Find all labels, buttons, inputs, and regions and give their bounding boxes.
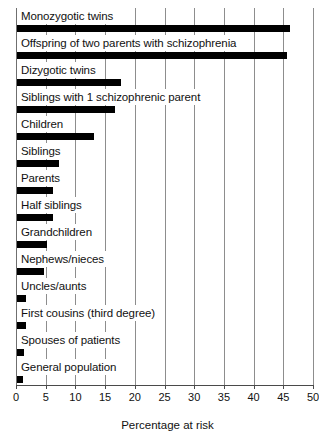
bar xyxy=(17,268,44,275)
bar xyxy=(17,160,59,167)
x-tick-20 xyxy=(135,385,136,389)
x-tick-50 xyxy=(313,385,314,389)
x-tick-label: 50 xyxy=(307,391,319,403)
bar-row: Spouses of patients xyxy=(16,332,313,359)
gridline-50 xyxy=(313,8,314,385)
x-tick-label: 40 xyxy=(247,391,259,403)
bar-label: Siblings with 1 schizophrenic parent xyxy=(17,89,203,105)
bar-label: Children xyxy=(17,116,66,132)
bar-row: First cousins (third degree) xyxy=(16,305,313,332)
x-tick-label: 25 xyxy=(158,391,170,403)
bar xyxy=(17,241,47,248)
bar xyxy=(17,214,53,221)
bar-row: General population xyxy=(16,359,313,386)
bar-label: Dizygotic twins xyxy=(17,62,99,78)
bar xyxy=(17,322,26,329)
x-tick-45 xyxy=(283,385,284,389)
bar-row: Uncles/aunts xyxy=(16,278,313,305)
bar xyxy=(17,376,23,383)
bar xyxy=(17,79,121,86)
bar-label: Siblings xyxy=(17,143,63,159)
bar-label: Nephews/nieces xyxy=(17,251,107,267)
x-axis-title: Percentage at risk xyxy=(0,419,319,431)
bar-row: Half siblings xyxy=(16,197,313,224)
bar-row: Siblings with 1 schizophrenic parent xyxy=(16,89,313,116)
x-tick-label: 0 xyxy=(13,391,19,403)
bar-label: Offspring of two parents with schizophre… xyxy=(17,35,239,51)
x-tick-15 xyxy=(105,385,106,389)
x-tick-40 xyxy=(254,385,255,389)
x-tick-label: 35 xyxy=(218,391,230,403)
bar-label: General population xyxy=(17,359,119,375)
x-tick-label: 20 xyxy=(129,391,141,403)
x-tick-10 xyxy=(75,385,76,389)
bar xyxy=(17,52,287,59)
bar-row: Children xyxy=(16,116,313,143)
bar-label: Spouses of patients xyxy=(17,332,123,348)
x-tick-label: 15 xyxy=(99,391,111,403)
bar-label: First cousins (third degree) xyxy=(17,305,158,321)
bar-row: Grandchildren xyxy=(16,224,313,251)
bar-label: Monozygotic twins xyxy=(17,8,116,24)
bar-row: Dizygotic twins xyxy=(16,62,313,89)
bar xyxy=(17,106,115,113)
bar-row: Siblings xyxy=(16,143,313,170)
bar xyxy=(17,133,94,140)
x-tick-label: 5 xyxy=(43,391,49,403)
x-tick-30 xyxy=(194,385,195,389)
x-tick-35 xyxy=(224,385,225,389)
bar-row: Offspring of two parents with schizophre… xyxy=(16,35,313,62)
bar-label: Grandchildren xyxy=(17,224,95,240)
chart-page: Monozygotic twinsOffspring of two parent… xyxy=(0,0,319,445)
x-tick-label: 45 xyxy=(277,391,289,403)
x-tick-5 xyxy=(46,385,47,389)
bar-label: Uncles/aunts xyxy=(17,278,89,294)
x-tick-label: 10 xyxy=(69,391,81,403)
x-tick-0 xyxy=(16,385,17,389)
bar-label: Half siblings xyxy=(17,197,85,213)
bar xyxy=(17,187,53,194)
bar-row: Monozygotic twins xyxy=(16,8,313,35)
bar xyxy=(17,295,26,302)
bar xyxy=(17,25,290,32)
bar-row: Parents xyxy=(16,170,313,197)
bar-row: Nephews/nieces xyxy=(16,251,313,278)
x-tick-label: 30 xyxy=(188,391,200,403)
plot-area: Monozygotic twinsOffspring of two parent… xyxy=(16,8,313,385)
bar xyxy=(17,349,24,356)
x-tick-25 xyxy=(165,385,166,389)
bar-label: Parents xyxy=(17,170,63,186)
